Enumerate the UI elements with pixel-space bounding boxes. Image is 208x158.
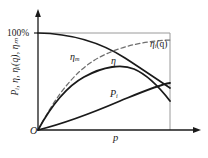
curve-label-eta-i-q-arg: (q) — [156, 39, 167, 49]
curve-label-eta-i-q: ηi(q) — [150, 40, 167, 50]
origin-label: O — [30, 126, 37, 136]
y-axis-arrow-icon — [35, 9, 41, 17]
curve-label-eta-base: η — [111, 55, 116, 66]
y-tick-label-100-percent: 100% — [7, 29, 29, 39]
curve-label-eta-m: ηm — [70, 52, 79, 62]
curve-label-p-i: Pi — [110, 89, 118, 99]
figure-container: Pᵢ, η, ηᵢ(q), ηₘ 100% O p ηm η ηi(q) Pi — [0, 0, 208, 158]
curve-eta — [38, 66, 170, 130]
curve-label-eta-m-sub: m — [75, 55, 79, 62]
y-axis-label: Pᵢ, η, ηᵢ(q), ηₘ — [11, 7, 21, 127]
curve-p-i — [38, 83, 170, 130]
x-axis-arrow-icon — [193, 127, 201, 133]
curve-label-eta: η — [111, 56, 116, 66]
curve-label-p-i-sub: i — [116, 92, 118, 99]
x-axis-label: p — [113, 133, 118, 144]
curve-eta-i-q-dashed — [38, 40, 170, 130]
